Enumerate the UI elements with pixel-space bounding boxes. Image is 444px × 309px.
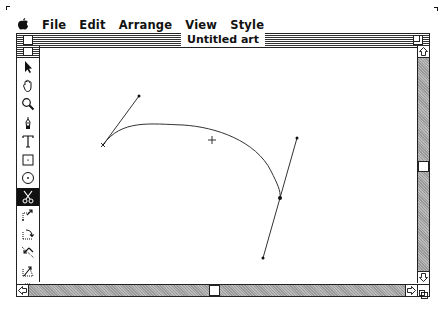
- rotate-icon: [21, 227, 35, 241]
- apple-menu[interactable]: [18, 18, 30, 33]
- horizontal-scroll-thumb[interactable]: [209, 285, 220, 296]
- menu-file[interactable]: File: [42, 18, 66, 32]
- grabber-tool[interactable]: [17, 77, 39, 96]
- resize-icon: [418, 289, 429, 300]
- hand-icon: [21, 79, 35, 93]
- vertical-scrollbar[interactable]: [417, 46, 429, 283]
- arrow-tool[interactable]: [17, 58, 39, 77]
- scale-tool[interactable]: [17, 206, 39, 225]
- text-t-icon: [21, 134, 35, 148]
- crosshair-cursor: [208, 136, 216, 144]
- control-point-start[interactable]: [138, 95, 141, 98]
- arrow-down-icon: [419, 273, 428, 282]
- arrow-up-icon: [419, 47, 428, 56]
- vertical-scroll-thumb[interactable]: [418, 161, 429, 172]
- text-tool[interactable]: [17, 132, 39, 151]
- arrow-icon: [21, 60, 35, 74]
- screen-corner-top-left: [6, 6, 10, 10]
- screen-corner-top-right: [434, 7, 438, 11]
- scroll-right-button[interactable]: [405, 285, 417, 296]
- anchor-point-end[interactable]: [278, 196, 282, 200]
- toolbox-palette: [17, 46, 40, 282]
- window-title: Untitled art: [181, 33, 265, 46]
- scissors-tool[interactable]: [17, 188, 39, 207]
- toolbox-header[interactable]: [17, 46, 39, 58]
- rotate-tool[interactable]: [17, 225, 39, 244]
- rectangle-tool[interactable]: [17, 151, 39, 170]
- zoom-box-button[interactable]: [413, 35, 423, 45]
- scissors-icon: [21, 190, 35, 204]
- reflect-icon: [21, 245, 35, 259]
- magnifier-tool[interactable]: [17, 95, 39, 114]
- menu-bar: File Edit Arrange View Style: [14, 17, 434, 33]
- size-box[interactable]: [417, 284, 429, 296]
- menu-view[interactable]: View: [185, 18, 217, 32]
- control-handle-start[interactable]: [103, 96, 139, 145]
- scroll-left-button[interactable]: [17, 285, 29, 296]
- drawing-canvas[interactable]: [40, 46, 416, 282]
- shear-icon: [21, 264, 35, 278]
- bezier-curve-path[interactable]: [103, 124, 280, 198]
- centered-oval-icon: [21, 171, 35, 185]
- arrow-right-icon: [407, 286, 416, 295]
- horizontal-scrollbar[interactable]: [17, 284, 417, 296]
- control-point-end-lower[interactable]: [262, 257, 265, 260]
- close-box-button[interactable]: [23, 35, 33, 45]
- menu-arrange[interactable]: Arrange: [119, 18, 173, 32]
- scroll-down-button[interactable]: [418, 271, 429, 283]
- pen-nib-icon: [21, 116, 35, 130]
- reflect-tool[interactable]: [17, 243, 39, 262]
- arrow-left-icon: [18, 286, 27, 295]
- anchor-point-start[interactable]: [101, 143, 105, 147]
- menu-style[interactable]: Style: [230, 18, 264, 32]
- menu-edit[interactable]: Edit: [79, 18, 105, 32]
- scale-icon: [21, 208, 35, 222]
- pen-tool[interactable]: [17, 114, 39, 133]
- control-point-end-upper[interactable]: [296, 137, 299, 140]
- magnifier-icon: [21, 97, 35, 111]
- shear-tool[interactable]: [17, 262, 39, 281]
- document-window: Untitled art: [16, 33, 430, 297]
- scroll-up-button[interactable]: [418, 46, 429, 58]
- toolbox-close-box[interactable]: [23, 47, 33, 56]
- centered-rectangle-icon: [21, 153, 35, 167]
- oval-tool[interactable]: [17, 169, 39, 188]
- apple-icon: [18, 18, 28, 30]
